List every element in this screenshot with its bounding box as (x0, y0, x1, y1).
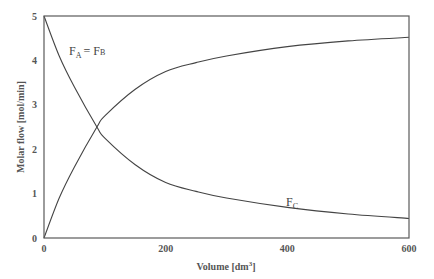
y-tick-label: 4 (32, 55, 37, 66)
x-tick-labels: 0200400600 (42, 243, 417, 254)
x-axis-label: Volume [dm3] (197, 260, 256, 272)
y-tick-label: 2 (32, 144, 37, 155)
y-tick-label: 3 (32, 99, 37, 110)
y-tick-label: 5 (32, 11, 37, 22)
series-fc-line (44, 37, 409, 238)
annotation-fa-fb: FA= FB (69, 44, 105, 60)
annotation-fc: FC (286, 195, 298, 211)
x-tick-label: 0 (42, 243, 47, 254)
y-tick-label: 0 (32, 233, 37, 244)
x-tick-label: 600 (402, 243, 417, 254)
molar-flow-chart: 012345 0200400600 Molar flow [mol/min] V… (0, 0, 434, 279)
x-tick-label: 400 (280, 243, 295, 254)
y-tick-label: 1 (32, 188, 37, 199)
y-axis-label: Molar flow [mol/min] (15, 81, 26, 173)
x-tick-label: 200 (158, 243, 173, 254)
y-tick-labels: 012345 (32, 11, 37, 244)
